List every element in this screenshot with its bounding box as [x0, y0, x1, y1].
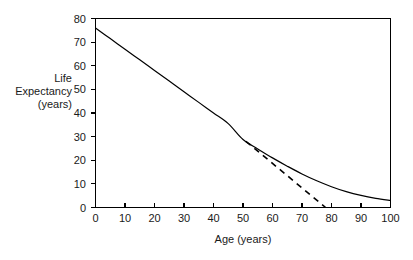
- x-tick-label-40: 40: [207, 212, 219, 224]
- y-axis-title: Life Expectancy (years): [15, 72, 72, 110]
- y-axis-tick-labels: 80 70 60 50 40 30 20 10 0: [74, 13, 86, 214]
- x-tick-label-20: 20: [148, 212, 160, 224]
- y-axis-ticks: [91, 19, 96, 208]
- x-tick-label-90: 90: [355, 212, 367, 224]
- life-expectancy-curve: [96, 28, 391, 200]
- x-tick-label-60: 60: [266, 212, 278, 224]
- x-axis-ticks: [96, 203, 391, 208]
- x-tick-label-10: 10: [119, 212, 131, 224]
- y-tick-label-40: 40: [74, 107, 86, 119]
- y-tick-label-70: 70: [74, 36, 86, 48]
- y-tick-label-30: 30: [74, 131, 86, 143]
- tangent-extrapolation-line: [246, 141, 326, 207]
- x-tick-label-100: 100: [381, 212, 399, 224]
- plot-frame: [96, 19, 391, 208]
- x-tick-label-50: 50: [237, 212, 249, 224]
- x-axis-title: Age (years): [215, 233, 272, 245]
- life-expectancy-line-chart: 80 70 60 50 40 30 20 10 0 0 10: [0, 0, 413, 260]
- y-axis-title-line-1: Life: [54, 72, 72, 84]
- y-tick-label-10: 10: [74, 178, 86, 190]
- x-axis-tick-labels: 0 10 20 30 40 50 60 70 80 90 100: [92, 212, 399, 224]
- chart-figure: 80 70 60 50 40 30 20 10 0 0 10: [0, 0, 413, 260]
- y-axis-title-line-3: (years): [38, 98, 72, 110]
- x-tick-label-70: 70: [296, 212, 308, 224]
- y-tick-label-80: 80: [74, 13, 86, 25]
- y-axis-title-line-2: Expectancy: [15, 85, 72, 97]
- y-tick-label-0: 0: [80, 202, 86, 214]
- x-tick-label-80: 80: [325, 212, 337, 224]
- x-tick-label-0: 0: [92, 212, 98, 224]
- y-tick-label-50: 50: [74, 83, 86, 95]
- y-tick-label-20: 20: [74, 154, 86, 166]
- y-tick-label-60: 60: [74, 60, 86, 72]
- x-tick-label-30: 30: [178, 212, 190, 224]
